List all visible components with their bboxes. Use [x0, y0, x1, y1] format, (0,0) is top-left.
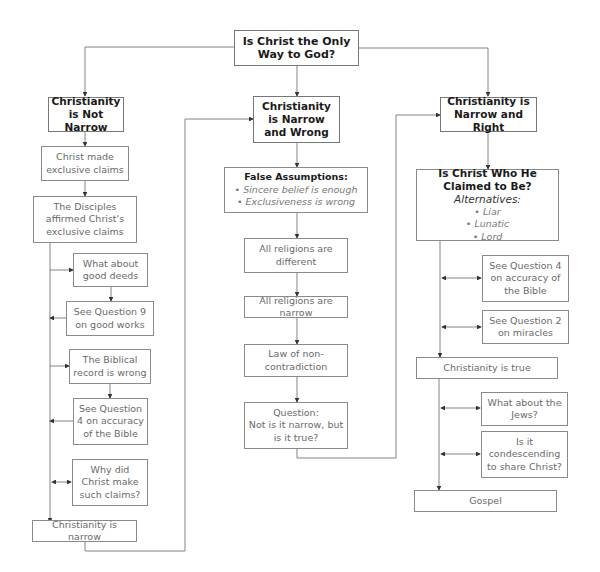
left-node-biblical-record: The Biblical record is wrong [69, 349, 151, 384]
alternatives-label: Alternatives: [454, 193, 521, 205]
assumption-item: • Sincere belief is enough [235, 184, 358, 197]
right-node-christianity-true: Christianity is true [416, 357, 558, 379]
left-node-good-deeds: What about good deeds [73, 253, 148, 287]
left-node-christ-claims: Christ made exclusive claims [41, 146, 129, 181]
right-header-text: Christianity is Narrow and Right [444, 95, 533, 134]
right-node-question-2: See Question 2 on miracles [482, 310, 569, 344]
node-text: All religions are different [248, 243, 344, 268]
node-text: Law of non-contradiction [248, 348, 344, 373]
node-text: Is it condescending to share Christ? [485, 436, 564, 474]
left-node-question-4: See Question 4 on accuracy of the Bible [73, 398, 148, 445]
node-text: The Biblical record is wrong [73, 354, 147, 379]
left-node-why-claims: Why did Christ make such claims? [72, 459, 148, 506]
node-text: All religions are narrow [248, 295, 344, 320]
claim-box: Is Christ Who He Claimed to Be? Alternat… [416, 169, 559, 241]
middle-node-religions-narrow: All religions are narrow [244, 296, 348, 318]
claim-title: Is Christ Who He Claimed to Be? [438, 167, 537, 192]
node-text: The Disciples affirmed Christ's exclusiv… [37, 201, 133, 239]
title-box: Is Christ the Only Way to God? [234, 30, 359, 66]
false-assumptions-title: False Assumptions: [244, 171, 348, 184]
node-text: See Question 9 on good works [70, 306, 150, 331]
right-node-condescending: Is it condescending to share Christ? [481, 431, 568, 478]
right-node-question-4: See Question 4 on accuracy of the Bible [482, 255, 569, 302]
alternative-item: • Lord [473, 231, 503, 244]
alternative-item: • Liar [474, 206, 500, 219]
node-text: Gospel [469, 495, 502, 508]
node-text: Christ made exclusive claims [45, 151, 125, 176]
middle-node-religions-different: All religions are different [244, 238, 348, 273]
node-text: What about good deeds [77, 258, 144, 283]
left-header-text: Christianity is Not Narrow [52, 95, 121, 134]
title-text: Is Christ the Only Way to God? [238, 35, 355, 61]
right-node-gospel: Gospel [414, 490, 557, 512]
alternative-item: • Lunatic [466, 218, 509, 231]
right-header-box: Christianity is Narrow and Right [440, 97, 537, 132]
middle-header-text: Christianity is Narrow and Wrong [257, 100, 336, 139]
false-assumptions-box: False Assumptions: • Sincere belief is e… [224, 167, 368, 213]
node-text: Why did Christ make such claims? [76, 464, 144, 502]
question-text: Not is it narrow, but is it true? [248, 419, 344, 444]
node-text: See Question 2 on miracles [486, 315, 565, 340]
flowchart: Is Christ the Only Way to God? Christian… [0, 0, 600, 572]
node-text: What about the Jews? [485, 397, 564, 422]
left-node-disciples: The Disciples affirmed Christ's exclusiv… [33, 196, 137, 243]
middle-node-question: Question: Not is it narrow, but is it tr… [244, 402, 348, 449]
left-node-christianity-narrow: Christianity is narrow [32, 520, 137, 542]
right-node-jews: What about the Jews? [481, 392, 568, 426]
node-text: Christianity is narrow [36, 519, 133, 544]
question-label: Question: [273, 407, 319, 420]
middle-node-non-contradiction: Law of non-contradiction [244, 344, 348, 377]
middle-header-box: Christianity is Narrow and Wrong [253, 96, 340, 143]
left-node-question-9: See Question 9 on good works [66, 301, 154, 336]
assumption-item: • Exclusiveness is wrong [237, 196, 355, 209]
left-header-box: Christianity is Not Narrow [48, 97, 124, 132]
node-text: Christianity is true [443, 362, 530, 375]
node-text: See Question 4 on accuracy of the Bible [77, 403, 144, 441]
node-text: See Question 4 on accuracy of the Bible [486, 260, 565, 298]
